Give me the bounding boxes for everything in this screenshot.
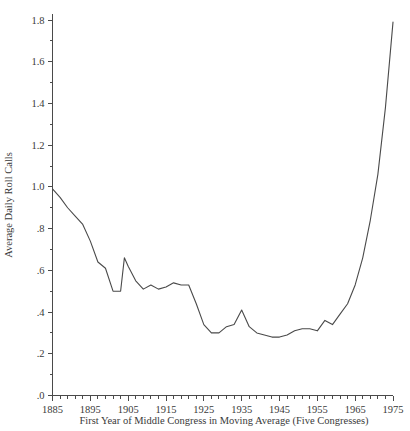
x-tick-label: 1975 [383, 404, 404, 415]
y-tick-label: .0 [37, 390, 45, 401]
y-tick-label: 1.6 [31, 56, 44, 67]
y-tick-label: 1.2 [31, 140, 44, 151]
y-axis-ticks [48, 20, 53, 396]
x-tick-label: 1965 [345, 404, 366, 415]
y-tick-label: .4 [37, 307, 46, 318]
x-tick-label: 1945 [269, 404, 290, 415]
y-axis-title: Average Daily Roll Calls [3, 152, 14, 258]
x-tick-label: 1895 [80, 404, 101, 415]
x-axis-tick-labels: 1885189519051915192519351945195519651975 [42, 404, 404, 415]
y-tick-label: 1.0 [31, 181, 44, 192]
y-tick-label: .2 [37, 348, 45, 359]
x-tick-label: 1915 [156, 404, 177, 415]
x-axis-ticks [53, 396, 394, 401]
data-series-line [53, 22, 394, 337]
x-tick-label: 1955 [307, 404, 328, 415]
chart-figure: .0.2.4.6.81.01.21.41.61.8 18851895190519… [0, 0, 410, 431]
x-tick-label: 1935 [231, 404, 252, 415]
x-tick-label: 1905 [118, 404, 139, 415]
y-tick-label: 1.8 [31, 15, 44, 26]
y-tick-label: 1.4 [31, 98, 45, 109]
x-tick-label: 1925 [193, 404, 214, 415]
x-axis-title: First Year of Middle Congress in Moving … [79, 415, 369, 427]
y-axis-tick-labels: .0.2.4.6.81.01.21.41.61.8 [31, 15, 45, 402]
x-tick-label: 1885 [42, 404, 63, 415]
y-tick-label: .8 [37, 223, 45, 234]
y-tick-label: .6 [37, 265, 45, 276]
line-chart: .0.2.4.6.81.01.21.41.61.8 18851895190519… [0, 0, 410, 431]
